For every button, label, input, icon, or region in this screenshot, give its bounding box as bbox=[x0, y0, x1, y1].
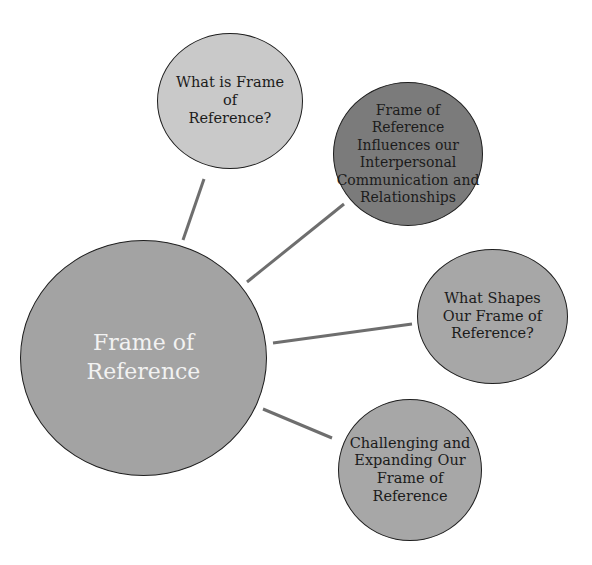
connector-center-to-branch-3 bbox=[273, 324, 412, 343]
branch-1-line-2: Reference? bbox=[189, 110, 272, 126]
center-node: Frame of Reference bbox=[20, 240, 267, 476]
branch-2-line-6: Relationships bbox=[360, 189, 456, 205]
branch-3-label: What Shapes Our Frame of Reference? bbox=[433, 290, 553, 343]
branch-1-label: What is Frame of Reference? bbox=[170, 74, 290, 127]
branch-4-line-2: Expanding Our bbox=[354, 452, 465, 468]
branch-2-label: Frame of Reference Influences our Interp… bbox=[334, 102, 482, 207]
branch-4-label: Challenging and Expanding Our Frame of R… bbox=[345, 435, 475, 506]
branch-3-line-2: Our Frame of bbox=[443, 308, 542, 324]
branch-2-line-5: Communication and bbox=[337, 172, 480, 188]
branch-4-line-1: Challenging and bbox=[350, 435, 471, 451]
branch-4-line-4: Reference bbox=[373, 488, 448, 504]
connector-center-to-branch-2 bbox=[247, 204, 344, 282]
connector-center-to-branch-1 bbox=[183, 179, 204, 240]
branch-2-line-3: Influences our bbox=[357, 137, 459, 153]
branch-node-influences-communication: Frame of Reference Influences our Interp… bbox=[333, 82, 483, 226]
branch-2-line-1: Frame of bbox=[376, 102, 440, 118]
branch-node-what-shapes-frame: What Shapes Our Frame of Reference? bbox=[417, 249, 568, 384]
branch-3-line-1: What Shapes bbox=[444, 290, 541, 306]
branch-3-line-3: Reference? bbox=[451, 325, 534, 341]
branch-2-line-2: Reference bbox=[372, 119, 444, 135]
branch-2-line-4: Interpersonal bbox=[360, 154, 457, 170]
branch-1-line-1: What is Frame of bbox=[176, 74, 284, 108]
branch-node-what-is-frame-of-reference: What is Frame of Reference? bbox=[157, 33, 303, 169]
center-line-2: Reference bbox=[87, 359, 201, 384]
center-node-label: Frame of Reference bbox=[54, 329, 234, 386]
connector-center-to-branch-4 bbox=[263, 409, 332, 438]
branch-node-challenging-expanding: Challenging and Expanding Our Frame of R… bbox=[338, 399, 482, 541]
center-line-1: Frame of bbox=[93, 330, 194, 355]
branch-4-line-3: Frame of bbox=[377, 470, 444, 486]
